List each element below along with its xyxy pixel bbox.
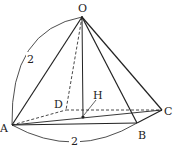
dimension-label-AB: 2 bbox=[71, 135, 78, 148]
point-O bbox=[81, 16, 83, 18]
label-B: B bbox=[138, 129, 146, 142]
dimension-label-OA: 2 bbox=[27, 53, 34, 66]
hidden-edges bbox=[12, 17, 162, 125]
label-C: C bbox=[164, 105, 172, 118]
edge-OA bbox=[12, 17, 82, 125]
edge-OD bbox=[66, 17, 82, 110]
pyramid-diagram: O A B C D H 2 2 bbox=[0, 0, 173, 148]
label-D: D bbox=[54, 98, 63, 111]
h-leader-line bbox=[84, 100, 96, 115]
diagonal-AC bbox=[12, 110, 162, 125]
label-O: O bbox=[78, 2, 87, 15]
label-H: H bbox=[93, 89, 103, 102]
visible-edges bbox=[12, 17, 162, 125]
height-OH bbox=[82, 17, 83, 117]
point-H bbox=[81, 115, 84, 118]
label-A: A bbox=[0, 122, 9, 135]
